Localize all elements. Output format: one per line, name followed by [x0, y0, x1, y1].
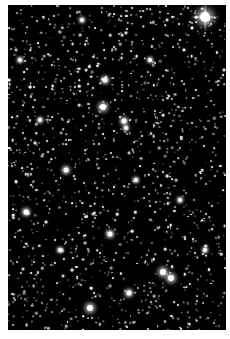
- faint-star: [26, 247, 27, 248]
- faint-star: [93, 292, 95, 294]
- faint-star: [117, 318, 118, 319]
- faint-star: [19, 152, 21, 154]
- faint-star: [181, 80, 183, 82]
- faint-star: [74, 178, 76, 180]
- faint-star: [44, 264, 45, 265]
- faint-star: [63, 129, 64, 130]
- faint-star: [133, 217, 135, 219]
- faint-star: [178, 23, 180, 25]
- faint-star: [175, 151, 176, 152]
- faint-star: [133, 152, 135, 154]
- faint-star: [102, 42, 104, 44]
- faint-star: [143, 186, 145, 188]
- faint-star: [109, 13, 111, 15]
- faint-star: [95, 296, 96, 297]
- faint-star: [200, 211, 201, 212]
- faint-star: [12, 217, 14, 219]
- faint-star: [87, 83, 89, 85]
- faint-star: [220, 115, 223, 118]
- faint-star: [156, 122, 158, 124]
- faint-star: [199, 119, 201, 121]
- faint-star: [107, 173, 109, 175]
- faint-star: [99, 295, 101, 297]
- faint-star: [116, 252, 118, 254]
- faint-star: [206, 162, 207, 163]
- faint-star: [93, 54, 95, 56]
- faint-star: [194, 63, 196, 65]
- faint-star: [159, 45, 160, 46]
- faint-star: [216, 127, 218, 129]
- faint-star: [63, 36, 66, 39]
- faint-star: [101, 119, 103, 121]
- faint-star: [181, 110, 183, 112]
- faint-star: [95, 134, 97, 136]
- faint-star: [179, 39, 181, 41]
- faint-star: [125, 322, 126, 323]
- faint-star: [111, 50, 113, 52]
- faint-star: [211, 43, 213, 45]
- faint-star: [26, 125, 28, 127]
- faint-star: [69, 285, 70, 286]
- faint-star: [70, 252, 72, 254]
- faint-star: [14, 299, 16, 301]
- faint-star: [124, 32, 127, 35]
- faint-star: [154, 114, 155, 115]
- faint-star: [94, 259, 95, 260]
- faint-star: [184, 62, 185, 63]
- faint-star: [21, 110, 23, 112]
- faint-star: [27, 116, 29, 118]
- faint-star: [49, 23, 51, 25]
- faint-star: [195, 240, 197, 242]
- faint-star: [134, 201, 135, 202]
- faint-star: [23, 71, 25, 73]
- faint-star: [105, 154, 106, 155]
- faint-star: [37, 291, 39, 293]
- faint-star: [24, 304, 26, 306]
- faint-star: [182, 131, 183, 132]
- faint-star: [207, 120, 209, 122]
- faint-star: [8, 303, 10, 305]
- faint-star: [125, 15, 127, 17]
- faint-star: [196, 60, 197, 61]
- faint-star: [210, 312, 211, 313]
- faint-star: [135, 119, 137, 121]
- faint-star: [31, 16, 33, 18]
- faint-star: [152, 282, 154, 284]
- faint-star: [101, 244, 102, 245]
- faint-star: [79, 158, 80, 159]
- faint-star: [202, 253, 204, 255]
- faint-star: [78, 104, 81, 107]
- faint-star: [58, 184, 60, 186]
- faint-star: [134, 170, 136, 172]
- faint-star: [30, 151, 31, 152]
- faint-star: [107, 210, 109, 212]
- faint-star: [55, 93, 56, 94]
- faint-star: [176, 142, 178, 144]
- faint-star: [109, 226, 111, 228]
- faint-star: [223, 83, 225, 85]
- faint-star: [69, 98, 70, 99]
- faint-star: [211, 69, 213, 71]
- faint-star: [28, 256, 29, 257]
- faint-star: [146, 8, 148, 10]
- faint-star: [53, 89, 54, 90]
- faint-star: [69, 14, 71, 16]
- bright-star: [38, 118, 42, 122]
- faint-star: [200, 27, 201, 28]
- faint-star: [96, 163, 98, 165]
- faint-star: [121, 34, 124, 37]
- faint-star: [164, 24, 166, 26]
- faint-star: [82, 315, 84, 317]
- faint-star: [52, 116, 54, 118]
- faint-star: [40, 31, 43, 34]
- faint-star: [80, 129, 82, 131]
- faint-star: [187, 254, 189, 256]
- faint-star: [33, 261, 35, 263]
- faint-star: [21, 170, 23, 172]
- faint-star: [61, 40, 63, 42]
- faint-star: [207, 279, 208, 280]
- faint-star: [113, 130, 115, 132]
- faint-star: [82, 329, 84, 330]
- faint-star: [145, 10, 146, 11]
- faint-star: [219, 28, 221, 30]
